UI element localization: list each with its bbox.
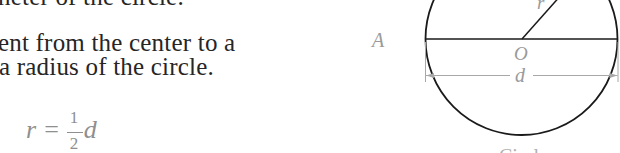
label-radius-r: r bbox=[537, 0, 545, 13]
arrowhead-left-icon bbox=[426, 73, 434, 78]
label-center-o: O bbox=[514, 43, 528, 64]
circle-diagram: A O r d Circle bbox=[0, 0, 620, 153]
label-diameter-d: d bbox=[515, 64, 526, 86]
label-point-a: A bbox=[370, 29, 385, 51]
figure-caption: Circle bbox=[499, 145, 548, 153]
arrowhead-right-icon bbox=[610, 73, 618, 78]
